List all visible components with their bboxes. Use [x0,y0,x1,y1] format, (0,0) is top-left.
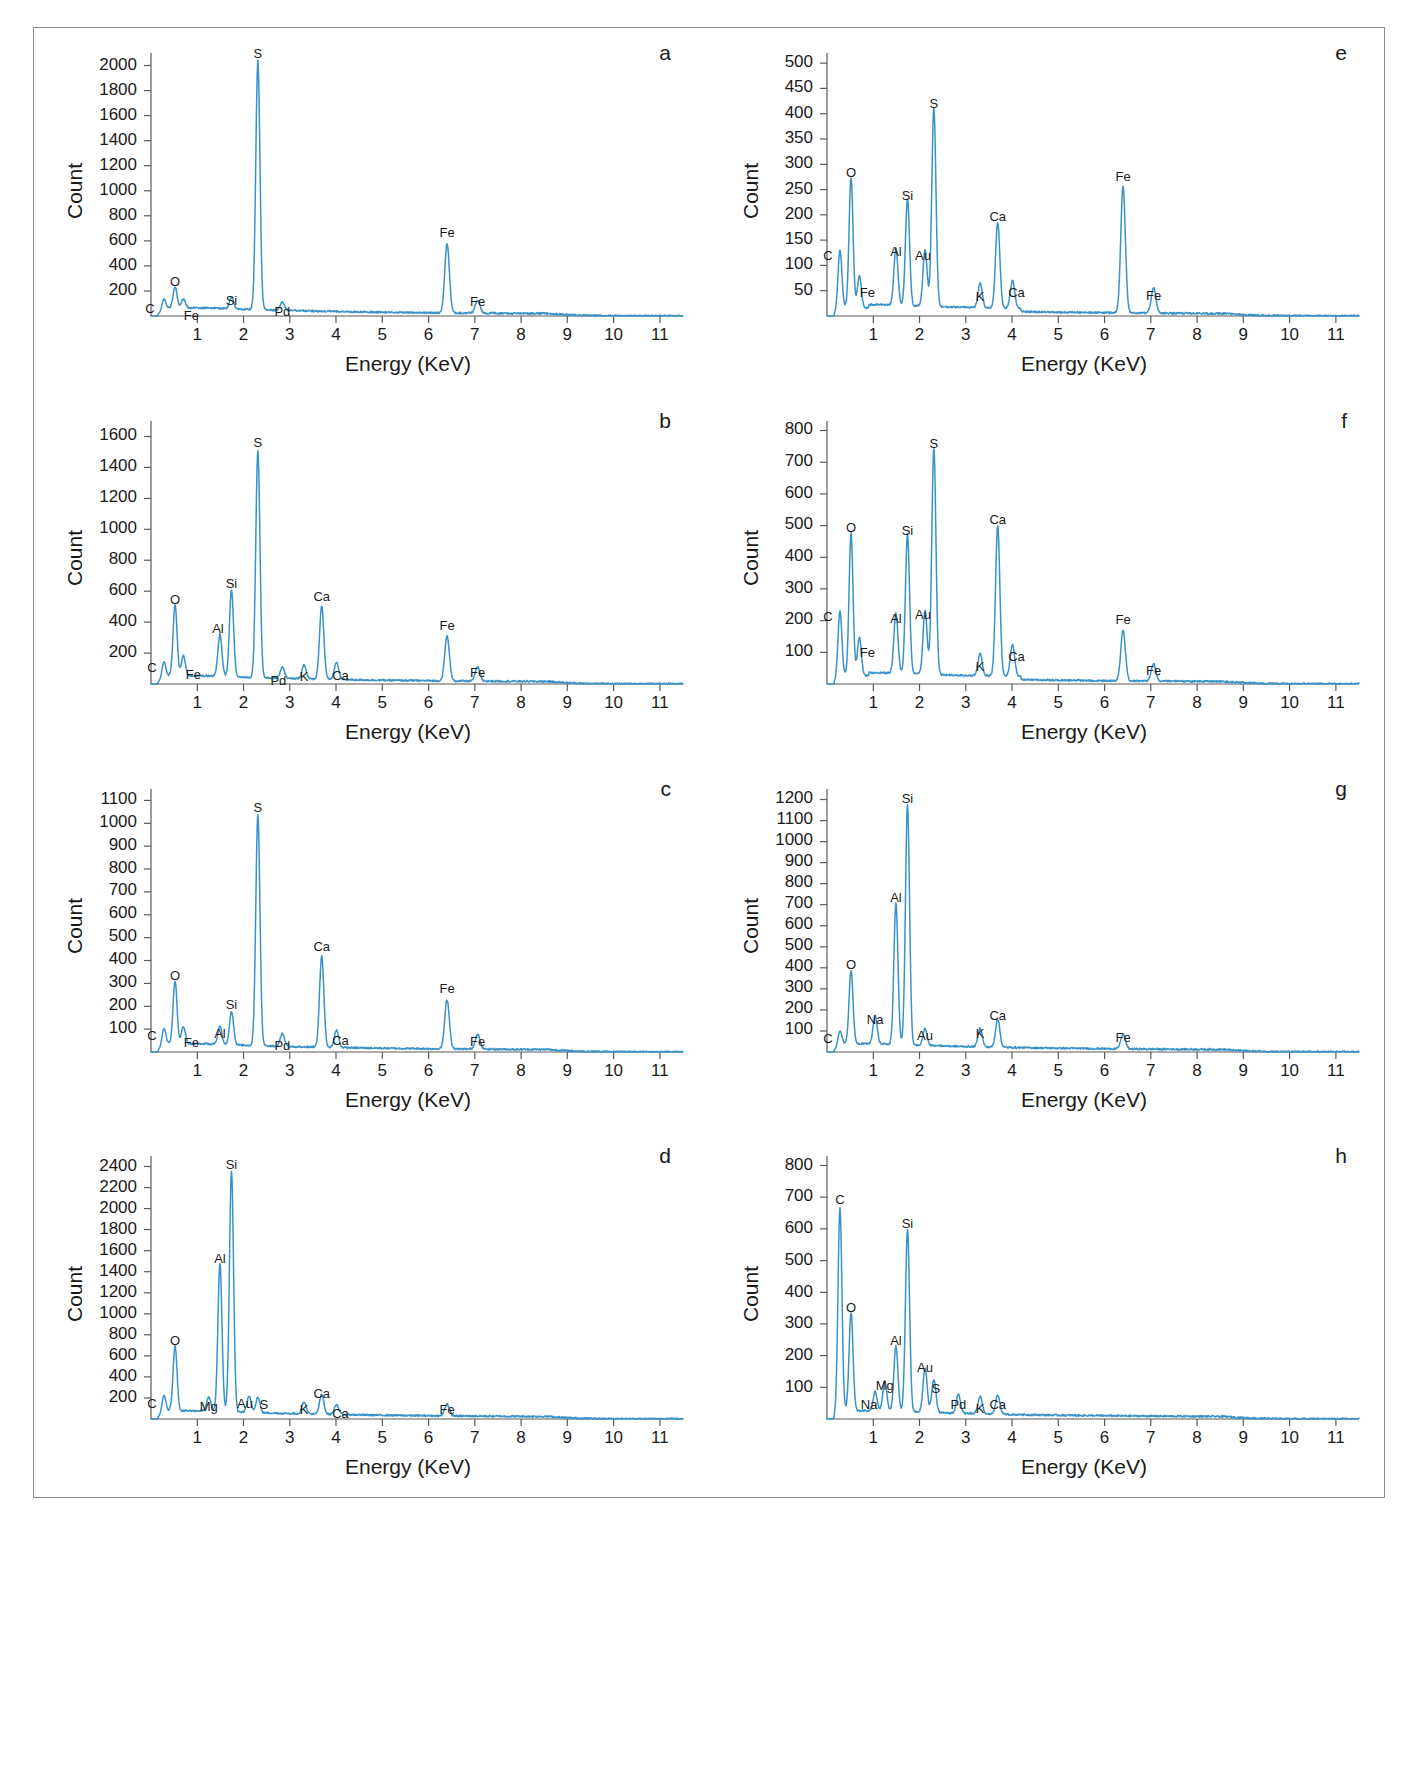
y-axis-title: Count [739,162,763,218]
peak-label-si: Si [217,293,245,308]
peak-label-o: O [161,1333,189,1348]
peak-label-si: Si [217,997,245,1012]
y-tick-label: 400 [33,1366,137,1386]
y-tick-label: 800 [709,872,813,892]
peak-label-s: S [920,436,948,451]
x-tick-label: 6 [1085,1061,1125,1081]
peak-label-c: C [814,248,842,263]
peak-label-si: Si [893,791,921,806]
y-tick-label: 1600 [33,425,137,445]
peak-label-ca: Ca [1003,649,1031,664]
x-tick-label: 6 [1085,693,1125,713]
y-tick-label: 800 [33,1324,137,1344]
x-tick-label: 11 [640,1428,680,1448]
x-tick-label: 2 [224,1061,264,1081]
peak-label-fe: Fe [177,1035,205,1050]
x-tick-label: 9 [1223,325,1263,345]
y-tick-label: 1200 [709,788,813,808]
y-tick-label: 1400 [33,130,137,150]
x-tick-label: 2 [224,325,264,345]
x-tick-label: 8 [1177,693,1217,713]
x-tick-label: 3 [946,325,986,345]
x-tick-label: 10 [594,693,634,713]
peak-label-k: K [966,1026,994,1041]
y-tick-label: 2000 [33,55,137,75]
x-tick-label: 1 [177,325,217,345]
peak-label-al: Al [882,611,910,626]
panel-letter-f: f [1341,409,1347,433]
peak-label-na: Na [855,1397,883,1412]
x-tick-label: 5 [1038,1428,1078,1448]
y-tick-label: 1100 [709,809,813,829]
x-tick-label: 2 [900,325,940,345]
x-tick-label: 5 [362,325,402,345]
peak-label-c: C [826,1192,854,1207]
x-tick-label: 6 [409,1428,449,1448]
peak-label-ca: Ca [308,939,336,954]
peak-label-fe: Fe [433,225,461,240]
peak-label-c: C [138,1028,166,1043]
spectrum-panel-f: f1002003004005006007008001234567891011Co… [709,395,1385,763]
peak-label-ca: Ca [308,1386,336,1401]
peak-label-ca: Ca [1003,285,1031,300]
y-tick-label: 900 [33,835,137,855]
y-tick-label: 1800 [33,80,137,100]
peak-label-c: C [814,609,842,624]
peak-label-s: S [244,435,272,450]
x-tick-label: 7 [455,1428,495,1448]
peak-label-o: O [161,274,189,289]
x-tick-label: 5 [362,1428,402,1448]
y-tick-label: 50 [709,280,813,300]
peak-label-na: Na [861,1012,889,1027]
peak-label-pd: Pd [268,1038,296,1053]
x-axis-title: Energy (KeV) [345,1088,471,1112]
y-tick-label: 1000 [709,830,813,850]
x-tick-label: 4 [316,693,356,713]
x-tick-label: 3 [270,325,310,345]
x-tick-label: 7 [1131,1428,1171,1448]
x-tick-label: 3 [270,693,310,713]
y-axis-title: Count [739,898,763,954]
x-tick-label: 2 [900,1428,940,1448]
y-tick-label: 100 [709,641,813,661]
y-tick-label: 100 [709,254,813,274]
peak-label-al: Al [206,1251,234,1266]
spectrum-panel-a: a200400600800100012001400160018002000123… [33,27,709,395]
y-tick-label: 400 [33,255,137,275]
x-tick-label: 10 [1270,325,1310,345]
y-tick-label: 600 [709,1218,813,1238]
spectrum-panel-g: g100200300400500600700800900100011001200… [709,763,1385,1131]
x-tick-label: 9 [547,693,587,713]
x-tick-label: 7 [1131,325,1171,345]
peak-label-ca: Ca [984,1008,1012,1023]
figure-page: a200400600800100012001400160018002000123… [0,0,1417,1781]
x-tick-label: 3 [946,1428,986,1448]
y-tick-label: 300 [33,972,137,992]
peak-label-au: Au [911,1360,939,1375]
x-tick-label: 10 [1270,693,1310,713]
x-tick-label: 11 [1316,693,1356,713]
peak-label-fe: Fe [1109,612,1137,627]
x-tick-label: 1 [177,1428,217,1448]
y-tick-label: 1200 [33,487,137,507]
peak-label-fe: Fe [177,308,205,323]
x-tick-label: 10 [1270,1428,1310,1448]
peak-label-al: Al [206,1026,234,1041]
x-tick-label: 8 [501,1428,541,1448]
y-axis-title: Count [63,1266,87,1322]
x-tick-label: 11 [640,693,680,713]
peak-label-c: C [138,660,166,675]
spectrum-panel-h: h1002003004005006007008001234567891011Co… [709,1130,1385,1498]
peak-label-o: O [837,165,865,180]
x-tick-label: 8 [1177,1061,1217,1081]
peak-label-fe: Fe [1140,288,1168,303]
y-tick-label: 600 [33,230,137,250]
x-tick-label: 5 [362,693,402,713]
peak-label-fe: Fe [433,1402,461,1417]
peak-label-o: O [161,592,189,607]
y-tick-label: 200 [33,280,137,300]
y-tick-label: 2200 [33,1177,137,1197]
peak-label-si: Si [217,576,245,591]
x-tick-label: 7 [455,325,495,345]
panel-letter-a: a [659,41,671,65]
